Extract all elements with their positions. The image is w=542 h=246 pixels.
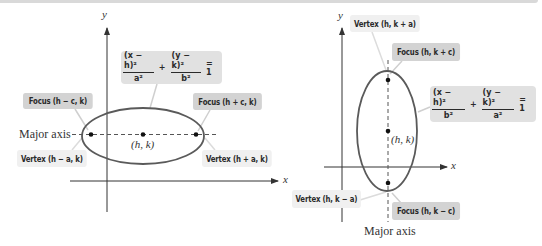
left-major-axis-label: Major axis <box>19 127 71 142</box>
bottom-vertex-leader <box>360 192 386 200</box>
right-focus-leader <box>198 110 210 131</box>
right-eq-term2-den: a² <box>493 110 502 121</box>
left-eq-term2: (y − k)² b² <box>171 51 202 84</box>
left-eq-term2-num: (y − k)² <box>171 51 202 73</box>
left-focus-label: Focus (h − c, k) <box>23 93 93 109</box>
left-focus-point <box>89 132 94 137</box>
right-eq-term2-num: (y − k)² <box>482 88 515 110</box>
right-eq-plus: + <box>470 100 477 109</box>
left-eq-term1-den: a² <box>134 73 143 84</box>
left-center-point <box>141 132 146 137</box>
left-right-focus-point <box>194 132 199 137</box>
right-vertex-label: Vertex (h + a, k) <box>202 150 272 167</box>
left-center-label: (h, k) <box>131 138 154 150</box>
right-eq-term1-num: (x − h)² <box>432 88 465 110</box>
right-major-axis-label: Major axis <box>364 224 416 239</box>
bottom-focus-point <box>386 181 391 186</box>
left-eq-term2-den: b² <box>181 73 190 84</box>
right-focus-label: Focus (h + c, k) <box>193 93 262 110</box>
left-x-axis-label: x <box>283 173 288 185</box>
left-eq-plus: + <box>159 63 166 72</box>
bottom-focus-label: Focus (h, k − c) <box>392 202 460 220</box>
right-vertex-leader <box>205 138 215 150</box>
top-vertex-leader <box>372 32 386 70</box>
top-focus-label: Focus (h, k + c) <box>392 43 460 61</box>
right-y-axis-label: y <box>338 9 343 21</box>
left-equation-leader <box>150 84 157 108</box>
right-x-axis-label: x <box>451 159 456 171</box>
right-eq-term1-den: b² <box>444 110 453 121</box>
left-vertex-leader <box>72 138 82 150</box>
right-eq-equals: = 1 <box>519 95 533 113</box>
left-equation-box: (x − h)² a² + (y − k)² b² = 1 <box>121 51 222 84</box>
right-center-point <box>386 129 391 134</box>
right-equation-box: (x − h)² b² + (y − k)² a² = 1 <box>430 86 536 122</box>
top-focus-point <box>386 78 391 83</box>
right-equation-leader <box>418 107 430 112</box>
top-vertex-label: Vertex (h, k + a) <box>350 15 420 32</box>
left-y-axis-label: y <box>102 8 107 20</box>
right-eq-term2: (y − k)² a² <box>482 88 515 121</box>
bottom-vertex-label: Vertex (h, k − a) <box>292 190 361 208</box>
diagram-canvas <box>0 0 542 246</box>
left-eq-term1: (x − h)² a² <box>123 51 154 84</box>
left-eq-term1-num: (x − h)² <box>123 51 154 73</box>
right-eq-term1: (x − h)² b² <box>432 88 465 121</box>
left-eq-equals: = 1 <box>206 59 219 77</box>
left-vertex-label: Vertex (h − a, k) <box>17 150 87 167</box>
right-center-label: (h, k) <box>391 133 414 145</box>
